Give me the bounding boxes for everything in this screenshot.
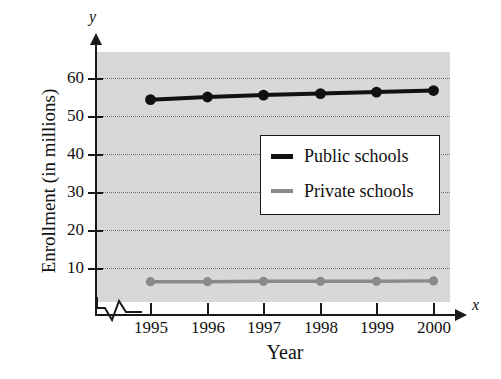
data-point-public-schools-1996 <box>202 92 213 103</box>
legend-label-private: Private schools <box>304 181 414 201</box>
series-line-private-schools <box>151 281 434 282</box>
data-point-private-schools-1997 <box>259 277 268 286</box>
data-point-public-schools-1995 <box>145 94 156 105</box>
data-point-private-schools-2000 <box>429 276 438 285</box>
legend-item-private: Private schools <box>271 174 433 208</box>
legend-line-swatch-private-icon <box>271 189 293 193</box>
data-point-private-schools-1999 <box>372 277 381 286</box>
y-axis-title: Enrollment (in millions) <box>38 36 60 326</box>
data-point-public-schools-1997 <box>258 90 269 101</box>
series-line-public-schools <box>151 91 434 100</box>
data-point-private-schools-1995 <box>146 277 155 286</box>
data-point-public-schools-1999 <box>371 87 382 98</box>
enrollment-line-chart: y x 60 50 40 30 20 10 1995 1996 1997 199… <box>0 0 501 379</box>
data-point-public-schools-1998 <box>315 88 326 99</box>
chart-legend: Public schools Private schools <box>260 135 440 215</box>
legend-item-public: Public schools <box>271 139 433 173</box>
legend-label-public: Public schools <box>304 146 409 166</box>
data-point-public-schools-2000 <box>428 85 439 96</box>
legend-line-swatch-public-icon <box>271 154 293 159</box>
data-point-private-schools-1996 <box>203 277 212 286</box>
data-point-private-schools-1998 <box>316 277 325 286</box>
x-axis-title: Year <box>160 341 410 364</box>
